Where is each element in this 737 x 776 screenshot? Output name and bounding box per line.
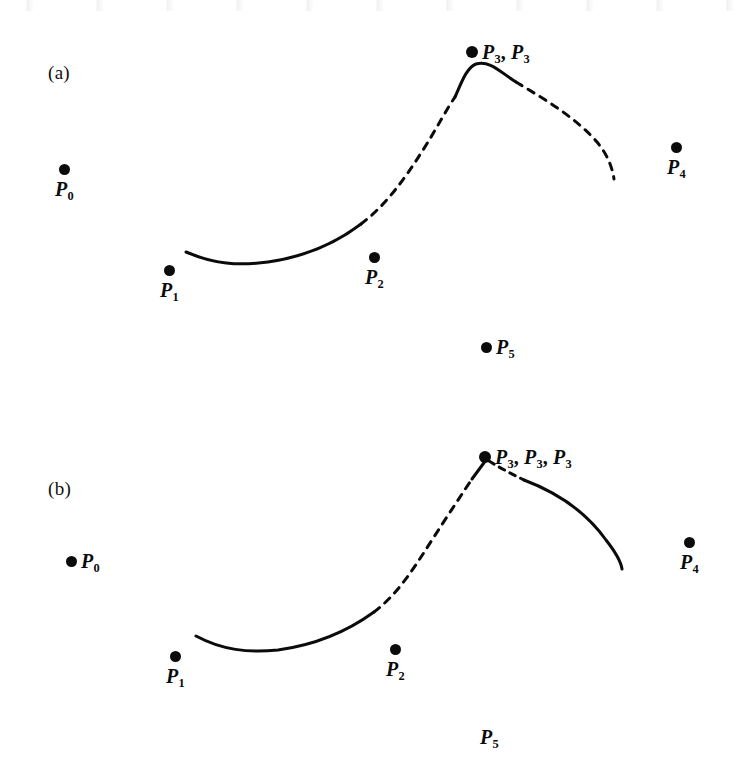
panel-b-segment-dashed-1 (374, 479, 472, 612)
panel-b-segment-solid-1 (196, 612, 374, 651)
control-point-b-p5-label: P5 (480, 726, 499, 748)
panel-a-segment-dashed-2 (516, 82, 614, 179)
control-point-b-p2-label: P2 (386, 659, 405, 679)
control-point-b-p2: P2 (386, 644, 405, 679)
panel-a-curve (186, 63, 614, 264)
control-point-dot (59, 164, 70, 175)
control-point-a-p5-label: P5 (496, 337, 515, 357)
panel-b-label: (b) (48, 478, 71, 500)
control-point-b-p4: P4 (680, 537, 699, 572)
control-point-dot (671, 142, 682, 153)
control-point-dot (164, 265, 175, 276)
control-point-b-p0-label: P0 (81, 551, 100, 571)
control-point-dot (170, 651, 181, 662)
control-point-a-p3: P3, P3 (466, 42, 530, 62)
control-point-a-p0: P0 (55, 164, 74, 199)
control-point-b-p3: P3, P3, P3 (479, 447, 572, 467)
control-point-a-p4-label: P4 (667, 157, 686, 177)
control-point-b-p0: P0 (66, 551, 100, 571)
control-point-dot (684, 537, 695, 548)
control-point-a-p3-label: P3, P3 (482, 42, 530, 62)
control-point-b-p4-label: P4 (680, 552, 699, 572)
control-point-a-p5: P5 (481, 337, 515, 357)
panel-a-segment-dashed-1 (361, 97, 455, 224)
control-point-dot (369, 252, 380, 263)
control-point-a-p1-label: P1 (160, 280, 179, 300)
control-point-dot (479, 451, 491, 463)
control-point-dot (481, 342, 492, 353)
control-point-dot (390, 644, 401, 655)
control-point-dot (66, 556, 77, 567)
panel-b-segment-solid-2 (524, 480, 622, 569)
panel-a-segment-solid-1 (186, 224, 361, 264)
control-point-dot (466, 46, 478, 58)
control-point-a-p0-label: P0 (55, 179, 74, 199)
panel-b-curve (196, 460, 622, 651)
control-point-b-p5: P5 (480, 727, 499, 747)
panel-a-label: (a) (48, 62, 70, 84)
control-point-b-p1: P1 (166, 651, 185, 686)
control-point-a-p2: P2 (365, 252, 384, 287)
panel-a-segment-solid-peak (455, 63, 516, 97)
control-point-a-p2-label: P2 (365, 267, 384, 287)
control-point-b-p3-label: P3, P3, P3 (495, 447, 572, 467)
figure-canvas (0, 0, 737, 776)
control-point-a-p1: P1 (160, 265, 179, 300)
control-point-b-p1-label: P1 (166, 666, 185, 686)
control-point-a-p4: P4 (667, 142, 686, 177)
